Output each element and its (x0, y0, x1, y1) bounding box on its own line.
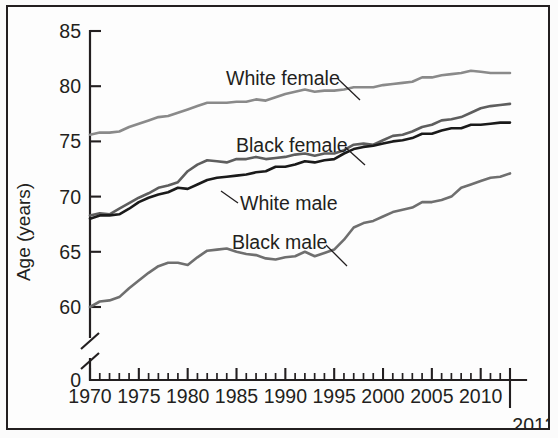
y-axis-title: Age (years) (13, 183, 34, 281)
series-label-white-male: White male (240, 192, 338, 214)
series-annotations-group: White femaleBlack femaleWhite maleBlack … (221, 67, 365, 266)
series-label-black-male: Black male (232, 231, 327, 253)
chart-frame: 6065707580850 19701975198019851990199520… (6, 5, 550, 430)
x-tick-label-2010: 2010 (459, 385, 503, 407)
chart-page: 6065707580850 19701975198019851990199520… (0, 0, 558, 438)
y-tick-label-70: 70 (59, 186, 81, 208)
x-tick-labels: 1970197519801985199019952000200520102013 (68, 385, 548, 428)
x-tick-label-2005: 2005 (410, 385, 454, 407)
series-label-white-female: White female (226, 67, 340, 89)
y-tick-labels: 6065707580850 (59, 20, 81, 391)
series-lines-group (90, 71, 510, 307)
x-tick-label-1980: 1980 (166, 385, 210, 407)
y-tick-label-65: 65 (59, 241, 81, 263)
x-tick-label-1995: 1995 (312, 385, 356, 407)
x-tick-label-1985: 1985 (215, 385, 259, 407)
x-end-year-label: 2013 (512, 414, 548, 428)
y-tick-label-85: 85 (59, 20, 81, 42)
leader-line-white-male (221, 191, 238, 203)
y-axis-title-group: Age (years) (13, 183, 34, 281)
x-tick-label-1990: 1990 (264, 385, 308, 407)
y-tick-label-75: 75 (59, 130, 81, 152)
y-tick-label-80: 80 (59, 75, 81, 97)
series-label-black-female: Black female (236, 134, 348, 156)
y-tick-label-60: 60 (59, 296, 81, 318)
life-expectancy-line-chart: 6065707580850 19701975198019851990199520… (8, 7, 548, 428)
x-tick-label-2000: 2000 (361, 385, 405, 407)
x-tick-label-1975: 1975 (117, 385, 161, 407)
x-tick-label-1970: 1970 (68, 385, 112, 407)
